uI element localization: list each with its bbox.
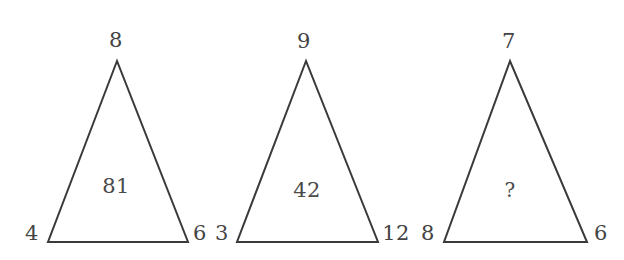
triangle-3: 7 8 6 ? bbox=[0, 0, 624, 260]
triangle-3-center-unknown: ? bbox=[504, 180, 515, 200]
triangle-puzzle-figure: 8 4 6 81 9 3 12 42 7 8 6 ? bbox=[0, 0, 624, 260]
triangle-3-bottom-left-label: 8 bbox=[421, 223, 435, 244]
triangle-3-bottom-right-label: 6 bbox=[594, 223, 608, 244]
triangle-3-apex-label: 7 bbox=[502, 31, 516, 52]
